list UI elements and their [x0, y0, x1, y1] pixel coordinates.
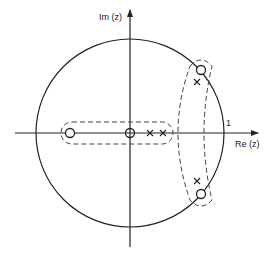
- imag-axis-label: Im (z): [99, 13, 122, 22]
- pole-zero-diagram: Im (z) Re (z) 1: [0, 0, 271, 258]
- pole-upper-icon: [194, 79, 200, 85]
- zero-upper-icon: [197, 66, 206, 75]
- pole-lower-icon: [194, 178, 200, 184]
- z-plane-plot: [0, 0, 271, 258]
- zero-lower-icon: [197, 190, 206, 199]
- zero-left-icon: [66, 129, 75, 138]
- real-axis-label: Re (z): [235, 140, 260, 149]
- unit-label: 1: [226, 119, 231, 128]
